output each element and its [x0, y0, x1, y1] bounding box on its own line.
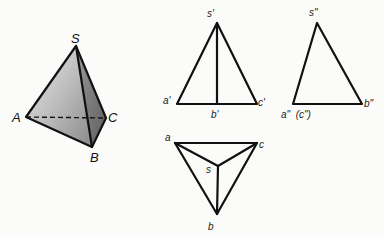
label-A: A	[11, 110, 21, 125]
top-outline	[175, 143, 257, 214]
label-c-top: c	[259, 139, 264, 150]
label-C: C	[108, 110, 118, 125]
label-a-prime: a'	[163, 95, 172, 106]
top-edge-sb	[217, 166, 218, 214]
label-S: S	[71, 31, 80, 46]
label-s-prime: s'	[207, 8, 215, 19]
side-view: s" a" (c") b"	[281, 7, 374, 120]
label-s-top: s	[206, 164, 211, 175]
label-s-double-prime: s"	[309, 7, 318, 18]
label-B: B	[90, 150, 99, 165]
label-b-prime: b'	[211, 109, 220, 120]
label-a-top: a	[165, 132, 171, 143]
label-b-top: b	[208, 221, 214, 232]
pyramid-3d: S A C B	[11, 31, 118, 165]
front-view: s' a' b' c'	[163, 8, 266, 120]
label-b-double-prime: b"	[364, 98, 374, 109]
top-view: a c s b	[165, 132, 264, 232]
label-c-prime: c'	[258, 97, 266, 108]
label-a-c-double-prime: a" (c")	[281, 109, 311, 120]
three-view-projection-diagram: S A C B s' a' b' c' s" a" (c") b" a c s …	[0, 0, 384, 237]
side-outline	[293, 23, 362, 104]
